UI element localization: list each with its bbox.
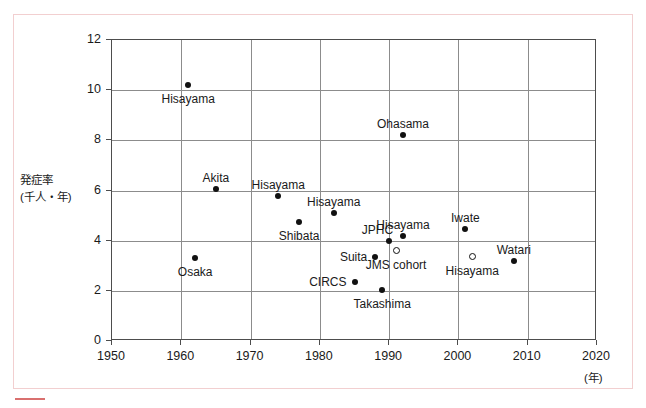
y-tickmark xyxy=(106,240,111,241)
y-tick-label: 8 xyxy=(61,133,101,146)
x-tick-label: 1950 xyxy=(81,350,141,363)
y-tick-label: 12 xyxy=(61,33,101,46)
data-point xyxy=(400,132,406,138)
data-point xyxy=(393,247,400,254)
x-tick-label: 1980 xyxy=(289,350,349,363)
gridline-vertical xyxy=(181,40,182,339)
data-point xyxy=(400,233,406,239)
gridline-horizontal xyxy=(112,191,595,192)
data-point-label: CIRCS xyxy=(309,276,346,288)
data-point xyxy=(386,238,392,244)
x-tick-label: 2020 xyxy=(566,350,626,363)
gridline-vertical xyxy=(320,40,321,339)
y-tick-label: 4 xyxy=(61,234,101,247)
x-tickmark xyxy=(250,340,251,345)
y-tick-label: 2 xyxy=(61,284,101,297)
data-point xyxy=(379,287,385,293)
x-tickmark xyxy=(180,340,181,345)
gridline-vertical xyxy=(458,40,459,339)
x-tick-label: 1990 xyxy=(358,350,418,363)
data-point-label: Takashima xyxy=(354,298,411,310)
data-point-label: Ohasama xyxy=(377,118,429,130)
x-tick-label: 1960 xyxy=(150,350,210,363)
data-point-label: Hisayama xyxy=(252,179,305,191)
gridline-horizontal xyxy=(112,140,595,141)
data-point xyxy=(462,226,468,232)
data-point-label: Shibata xyxy=(279,230,320,242)
data-point-label: JPHC xyxy=(362,224,393,236)
y-tickmark xyxy=(106,39,111,40)
data-point-label: Akita xyxy=(203,172,230,184)
data-point-label: Suita xyxy=(340,251,367,263)
x-tick-label: 2010 xyxy=(497,350,557,363)
gridline-vertical xyxy=(528,40,529,339)
y-tickmark xyxy=(106,139,111,140)
data-point xyxy=(469,253,476,260)
figure-root: 発症率 (千人・年) (年) HisayamaOhasamaAkitaHisay… xyxy=(0,0,646,408)
data-point-label: Iwate xyxy=(451,212,480,224)
data-point xyxy=(192,255,198,261)
data-point xyxy=(352,279,358,285)
x-tick-label: 1970 xyxy=(220,350,280,363)
gridline-horizontal xyxy=(112,241,595,242)
y-tickmark xyxy=(106,190,111,191)
y-tickmark xyxy=(106,290,111,291)
scatter-chart: 発症率 (千人・年) (年) HisayamaOhasamaAkitaHisay… xyxy=(0,0,646,408)
data-point-label: JMS cohort xyxy=(366,259,427,271)
x-tickmark xyxy=(527,340,528,345)
x-tickmark xyxy=(388,340,389,345)
data-point-label: Watari xyxy=(497,244,531,256)
y-tick-label: 0 xyxy=(61,334,101,347)
data-point xyxy=(296,219,302,225)
y-tick-label: 6 xyxy=(61,184,101,197)
x-tickmark xyxy=(596,340,597,345)
gridline-horizontal xyxy=(112,291,595,292)
x-axis-unit-label: (年) xyxy=(584,369,603,385)
data-point-label: Hisayama xyxy=(162,93,215,105)
y-tick-label: 10 xyxy=(61,83,101,96)
data-point xyxy=(331,210,337,216)
data-point xyxy=(275,193,281,199)
data-point-label: Hisayama xyxy=(307,196,360,208)
y-tickmark xyxy=(106,89,111,90)
x-tickmark xyxy=(457,340,458,345)
x-tickmark xyxy=(111,340,112,345)
data-point xyxy=(511,258,517,264)
data-point-label: Osaka xyxy=(178,266,213,278)
gridline-vertical xyxy=(389,40,390,339)
data-point xyxy=(185,82,191,88)
gridline-horizontal xyxy=(112,90,595,91)
data-point-label: Hisayama xyxy=(446,265,499,277)
x-tickmark xyxy=(319,340,320,345)
x-tick-label: 2000 xyxy=(427,350,487,363)
plot-area: HisayamaOhasamaAkitaHisayamaShibataHisay… xyxy=(111,39,596,340)
